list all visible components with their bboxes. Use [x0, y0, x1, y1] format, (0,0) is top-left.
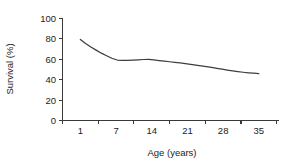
x-axis-title: Age (years)	[147, 147, 196, 158]
plot-area	[80, 39, 259, 73]
data-series-survival	[80, 39, 259, 73]
y-tick-label: 20	[45, 95, 56, 106]
x-tick-label: 14	[146, 125, 157, 136]
y-axis-title: Survival (%)	[4, 43, 15, 94]
x-tick-label: 1	[78, 125, 83, 136]
x-tick-label: 7	[113, 125, 118, 136]
y-axis-group: 020406080100 Survival (%)	[4, 13, 63, 126]
survival-chart-figure: 020406080100 Survival (%) 1714212835 Age…	[0, 0, 286, 166]
x-tick-label: 28	[218, 125, 229, 136]
y-tick-label: 60	[45, 54, 56, 65]
x-axis-group: 1714212835 Age (years)	[63, 121, 279, 159]
y-tick-label: 0	[51, 115, 56, 126]
y-tick-label: 100	[40, 13, 56, 24]
y-tick-label: 80	[45, 33, 56, 44]
y-tick-label: 40	[45, 74, 56, 85]
x-axis-tick-labels: 1714212835	[78, 125, 264, 136]
chart-canvas: 020406080100 Survival (%) 1714212835 Age…	[0, 0, 286, 166]
x-tick-label: 35	[254, 125, 265, 136]
x-tick-label: 21	[182, 125, 193, 136]
y-axis-tick-labels: 020406080100	[40, 13, 56, 126]
